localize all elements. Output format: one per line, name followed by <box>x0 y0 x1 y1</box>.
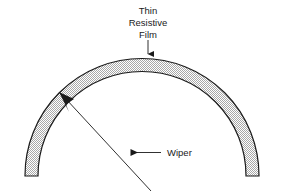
film-label-line1: Thin <box>139 5 157 16</box>
wiper-arm <box>59 92 151 191</box>
potentiometer-diagram: Thin Resistive Film Wiper <box>0 0 283 194</box>
diagram-canvas: Thin Resistive Film Wiper <box>0 0 283 194</box>
film-label: Thin Resistive Film <box>129 5 168 40</box>
wiper-line <box>66 99 151 191</box>
film-band-shape <box>25 59 259 176</box>
resistive-film-band <box>25 59 259 176</box>
film-label-line3: Film <box>139 29 157 40</box>
wiper-label-text: Wiper <box>167 147 192 158</box>
film-label-line2: Resistive <box>129 17 168 28</box>
